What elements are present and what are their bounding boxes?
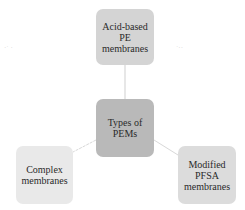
node-label: Complex membranes: [21, 164, 67, 186]
node-complex-membranes: Complex membranes: [16, 146, 73, 204]
connector-left: [73, 140, 96, 152]
node-acid-based-pe-membranes: Acid-based PE membranes: [96, 9, 154, 65]
node-label: Acid-based PE membranes: [102, 21, 148, 54]
node-types-of-pems: Types of PEMs: [96, 99, 154, 157]
node-label: Modified PFSA membranes: [184, 159, 230, 192]
node-modified-pfsa-membranes: Modified PFSA membranes: [178, 146, 236, 204]
center-label: Types of PEMs: [108, 117, 143, 139]
connector-right: [154, 140, 178, 155]
artifact-mark-left: ·˙ ·: [4, 44, 13, 52]
artifact-mark-right: ˙··: [176, 44, 183, 52]
